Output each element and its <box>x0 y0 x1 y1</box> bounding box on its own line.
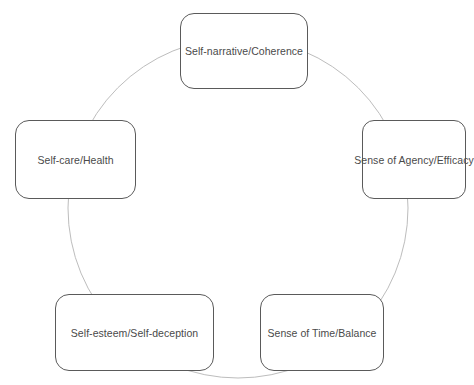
node-sense-of-time-balance: Sense of Time/Balance <box>260 294 384 371</box>
node-label: Self-care/Health <box>37 154 113 166</box>
node-label: Self-narrative/Coherence <box>185 45 303 57</box>
node-sense-of-agency-efficacy: Sense of Agency/Efficacy <box>362 120 466 199</box>
node-label: Sense of Agency/Efficacy <box>354 154 474 166</box>
node-self-esteem-self-deception: Self-esteem/Self-deception <box>55 294 214 371</box>
node-label: Self-esteem/Self-deception <box>71 327 198 339</box>
node-self-narrative-coherence: Self-narrative/Coherence <box>180 13 308 89</box>
node-label: Sense of Time/Balance <box>267 327 376 339</box>
node-self-care-health: Self-care/Health <box>15 120 136 199</box>
